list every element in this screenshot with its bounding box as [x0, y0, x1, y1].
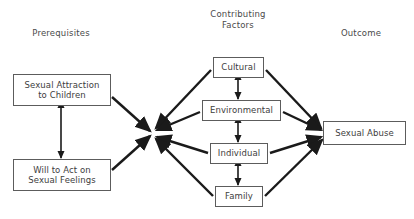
column-header-outcome: Outcome [301, 28, 414, 39]
column-header-contributing-factors: Contributing Factors [178, 9, 298, 30]
node-sexual-abuse[interactable]: Sexual Abuse [323, 121, 406, 145]
edge-family-to-junction [156, 139, 213, 196]
diagram-canvas: Prerequisites Contributing Factors Outco… [0, 0, 414, 219]
node-environmental[interactable]: Environmental [202, 100, 281, 121]
edge-individual-to-junction [157, 137, 208, 153]
node-individual[interactable]: Individual [210, 143, 268, 164]
node-sexual-attraction[interactable]: Sexual Attraction to Children [13, 74, 111, 106]
edge-will-to-junction [112, 136, 150, 170]
edge-attraction-to-junction [112, 97, 150, 131]
edge-family-to-abuse [265, 140, 322, 196]
node-family[interactable]: Family [215, 186, 263, 207]
node-cultural[interactable]: Cultural [213, 57, 264, 78]
node-will-to-act[interactable]: Will to Act on Sexual Feelings [13, 159, 111, 191]
column-header-prerequisites: Prerequisites [0, 28, 122, 39]
edge-individual-to-abuse [270, 137, 321, 153]
